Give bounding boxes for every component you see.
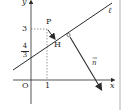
origin-label: O bbox=[22, 82, 29, 90]
vector-n-label: n bbox=[92, 60, 97, 67]
point-p-label: P bbox=[46, 18, 51, 26]
x-tick-1-label: 1 bbox=[45, 82, 50, 90]
y-intercept-fraction: 4 3 bbox=[21, 43, 29, 59]
vector-arrow-icon: → bbox=[92, 55, 97, 61]
line-l-label: ℓ bbox=[108, 7, 111, 15]
point-h-label: H bbox=[54, 41, 61, 49]
coordinate-diagram bbox=[0, 0, 124, 110]
line-l bbox=[13, 3, 112, 70]
y-tick-3-label: 3 bbox=[22, 25, 27, 33]
fraction-denominator: 3 bbox=[21, 52, 29, 60]
y-axis-label: y bbox=[22, 0, 27, 6]
right-border bbox=[119, 0, 121, 110]
p-to-h-arrow bbox=[48, 30, 55, 39]
right-angle-marker bbox=[67, 33, 70, 36]
x-axis-label: x bbox=[110, 82, 115, 90]
